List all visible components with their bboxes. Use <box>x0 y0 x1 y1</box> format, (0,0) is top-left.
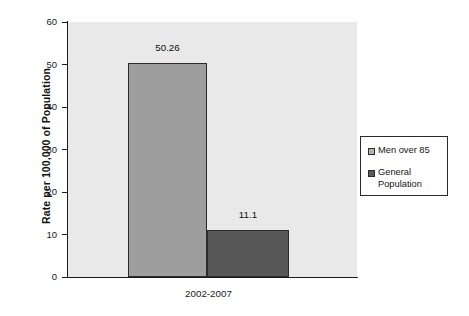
legend-swatch-icon-general-population <box>368 170 375 177</box>
bar-general-population[interactable] <box>207 230 289 277</box>
legend-label-men-over-85: Men over 85 <box>378 145 430 157</box>
y-tick-50 <box>62 64 68 65</box>
x-axis-category-label: 2002-2007 <box>128 288 289 299</box>
y-tick-label-60: 60 <box>46 17 57 27</box>
y-tick-60 <box>62 22 68 23</box>
legend-swatch-icon-men-over-85 <box>368 148 375 155</box>
y-tick-30 <box>62 149 68 150</box>
bar-label-men-over-85: 50.26 <box>128 42 207 53</box>
y-tick-20 <box>62 192 68 193</box>
y-tick-label-40: 40 <box>46 102 57 112</box>
y-tick-label-50: 50 <box>46 60 57 70</box>
y-tick-label-20: 20 <box>46 187 57 197</box>
bar-label-general-population: 11.1 <box>207 209 289 220</box>
y-tick-label-10: 10 <box>46 230 57 240</box>
y-tick-0 <box>62 277 68 278</box>
bar-chart: Rate per 100,000 of Population 60 50 40 … <box>0 0 469 316</box>
bar-men-over-85[interactable] <box>128 63 207 277</box>
legend: Men over 85 General Population <box>360 136 448 196</box>
y-tick-40 <box>62 107 68 108</box>
legend-label-general-population: General Population <box>378 167 444 190</box>
y-tick-label-30: 30 <box>46 145 57 155</box>
y-tick-10 <box>62 234 68 235</box>
legend-item-men-over-85[interactable]: Men over 85 <box>368 145 430 157</box>
y-tick-label-0: 0 <box>52 272 57 282</box>
legend-item-general-population[interactable]: General Population <box>368 167 444 190</box>
